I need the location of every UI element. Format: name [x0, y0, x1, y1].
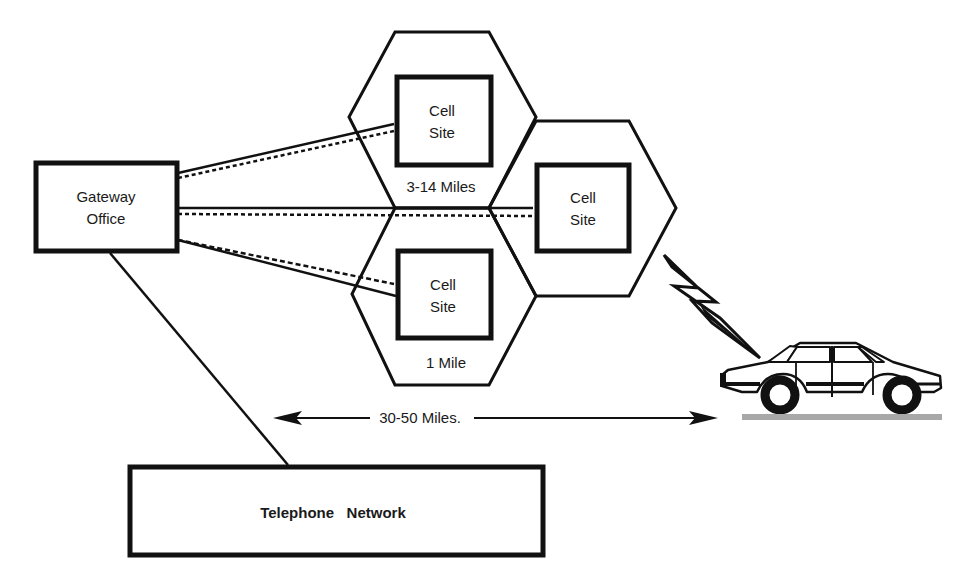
- link-top-solid: [178, 124, 394, 173]
- cell-min-label: 1 Mile: [426, 354, 466, 371]
- link-bottom-dashed: [178, 240, 394, 284]
- gateway-label-line2: Office: [87, 210, 126, 227]
- cell-site-top: Cell Site: [397, 77, 491, 165]
- gateway-office: Gateway Office: [36, 163, 177, 251]
- lightning-bolt-icon: [664, 255, 760, 358]
- cell-site-top-line2: Site: [429, 124, 455, 141]
- cell-site-bottom-line1: Cell: [430, 276, 456, 293]
- telephone-network: Telephone Network: [130, 467, 543, 555]
- link-bottom-solid: [178, 240, 396, 296]
- range-arrow: [273, 411, 718, 425]
- cell-site-right-line1: Cell: [570, 189, 596, 206]
- link-top-dashed: [178, 131, 394, 178]
- telephone-network-label: Telephone Network: [260, 504, 406, 521]
- gateway-label-line1: Gateway: [76, 188, 136, 205]
- cell-site-top-line1: Cell: [429, 102, 455, 119]
- cell-radius-label: 3-14 Miles: [406, 178, 475, 195]
- range-label: 30-50 Miles.: [379, 409, 461, 426]
- road-strip: [742, 414, 942, 420]
- link-to-telephone-network: [110, 253, 288, 465]
- cellular-network-diagram: Gateway Office Cell Site Cell Site Cell …: [0, 0, 975, 587]
- cell-site-bottom-line2: Site: [430, 298, 456, 315]
- cell-site-bottom: Cell Site: [398, 251, 491, 338]
- link-mid-dashed: [178, 214, 533, 216]
- cell-site-right-line2: Site: [570, 211, 596, 228]
- cell-site-right: Cell Site: [537, 165, 629, 251]
